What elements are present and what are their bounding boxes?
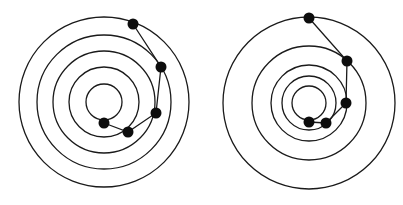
ring-circle: [53, 51, 155, 153]
ring-circle: [86, 84, 122, 120]
node-dot: [321, 118, 332, 129]
node-dot: [156, 62, 167, 73]
concentric-circles-diagram: [0, 0, 403, 205]
ring-circle: [223, 17, 395, 189]
right-target-diagram: [223, 13, 395, 190]
node-dot: [304, 117, 315, 128]
node-dot: [99, 118, 110, 129]
ring-circle: [292, 86, 326, 120]
node-dot: [151, 108, 162, 119]
node-dot: [342, 56, 353, 67]
node-dot: [304, 13, 315, 24]
ring-circle: [37, 35, 171, 169]
ring-circle: [19, 17, 189, 187]
left-target-diagram: [19, 17, 189, 187]
node-dot: [123, 127, 134, 138]
node-dot: [128, 19, 139, 30]
node-dot: [341, 98, 352, 109]
